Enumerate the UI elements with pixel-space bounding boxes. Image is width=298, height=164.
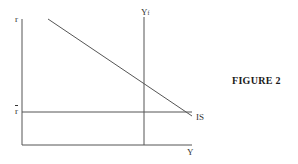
x-axis-label: Y [187,148,194,157]
figure-title: FIGURE 2 [232,75,281,86]
yf-line-label: Yf [141,8,150,17]
r-bar-label: r [15,107,18,116]
is-curve-label: IS [196,113,204,122]
is-curve [48,19,192,116]
figure-canvas: r r Y IS Yf FIGURE 2 [0,0,298,164]
r-axis-label: r [15,15,18,24]
yf-subscript: f [148,10,150,16]
